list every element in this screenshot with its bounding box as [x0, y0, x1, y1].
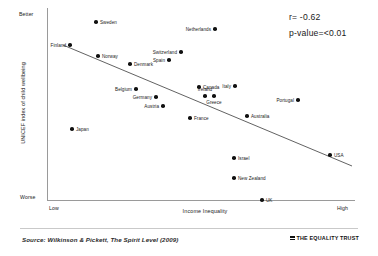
data-point-label: New Zealand — [238, 176, 266, 181]
data-point-label: Greece — [206, 100, 221, 105]
x-axis-high-label: High — [337, 205, 348, 211]
data-point-label: Japan — [76, 127, 89, 132]
data-point-label: Ireland — [198, 87, 212, 92]
data-point — [161, 104, 165, 108]
data-point — [232, 176, 236, 180]
x-axis-line — [47, 200, 355, 201]
data-point-label: Spain — [153, 58, 165, 63]
p-value-annotation: p-value=<0.01 — [289, 28, 347, 38]
y-axis-line — [47, 8, 48, 201]
data-point-label: France — [194, 116, 209, 121]
y-axis-top-label: Better — [19, 11, 33, 17]
data-point — [212, 94, 216, 98]
data-point-label: Belgium — [115, 87, 132, 92]
data-point-label: Norway — [102, 54, 118, 59]
data-point-label: Germany — [133, 95, 152, 100]
data-point-label: Denmark — [134, 62, 153, 67]
data-point — [179, 50, 183, 54]
x-axis-title: Income Inequality — [150, 208, 260, 214]
data-point — [167, 58, 171, 62]
data-point — [154, 95, 158, 99]
x-axis-low-label: Low — [49, 205, 59, 211]
data-point — [296, 98, 300, 102]
data-point-label: Italy — [222, 84, 231, 89]
data-point-label: Australia — [251, 114, 269, 119]
equality-trust-bars-icon — [290, 236, 295, 241]
chart-figure: Better Worse Low High UNICEF index of ch… — [0, 0, 378, 256]
y-axis-bottom-label: Worse — [20, 194, 35, 200]
data-point-label: Sweden — [100, 20, 117, 25]
data-point-label: Israel — [238, 156, 250, 161]
data-point-label: Portugal — [276, 98, 294, 103]
data-point — [245, 114, 249, 118]
source-citation: Source: Wilkinson & Pickett, The Spirit … — [22, 236, 178, 243]
data-point-label: USA — [334, 153, 344, 158]
y-axis-title: UNICEF index of child wellbeing — [20, 28, 26, 178]
trend-line — [0, 0, 378, 256]
data-point — [213, 27, 217, 31]
data-point — [203, 94, 207, 98]
data-point — [94, 20, 98, 24]
data-point — [70, 127, 74, 131]
data-point-label: Finland — [51, 43, 66, 48]
data-point-label: Switzerland — [153, 50, 177, 55]
data-point — [260, 198, 264, 202]
data-point — [188, 116, 192, 120]
data-point — [128, 62, 132, 66]
data-point — [233, 84, 237, 88]
data-point — [328, 153, 332, 157]
data-point — [96, 54, 100, 58]
data-point-label: UK — [266, 198, 272, 203]
data-point-label: Austria — [144, 104, 159, 109]
data-point — [134, 87, 138, 91]
data-point — [68, 43, 72, 47]
brand-name: THE EQUALITY TRUST — [297, 235, 360, 241]
data-point-label: Netherlands — [186, 27, 211, 32]
footer-divider — [20, 228, 358, 229]
brand-logo: THE EQUALITY TRUST — [290, 235, 360, 241]
correlation-annotation: r= -0.62 — [289, 12, 320, 22]
data-point — [232, 156, 236, 160]
